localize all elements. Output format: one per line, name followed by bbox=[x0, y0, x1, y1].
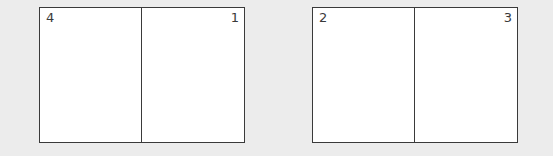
page-number: 2 bbox=[319, 11, 327, 24]
page-right: 1 bbox=[142, 8, 244, 142]
page-number: 3 bbox=[504, 11, 512, 24]
page-left: 2 bbox=[313, 8, 415, 142]
spread-1: 4 1 bbox=[39, 7, 245, 143]
page-left: 4 bbox=[40, 8, 142, 142]
page-right: 3 bbox=[415, 8, 517, 142]
page-number: 1 bbox=[231, 11, 239, 24]
page-number: 4 bbox=[46, 11, 54, 24]
spread-2: 2 3 bbox=[312, 7, 518, 143]
